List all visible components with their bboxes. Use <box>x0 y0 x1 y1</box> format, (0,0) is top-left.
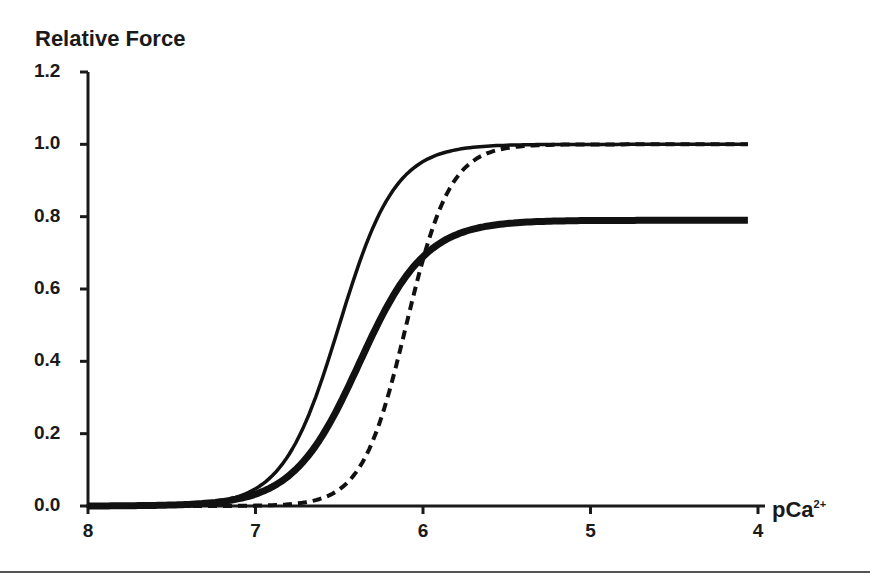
x-tick-label: 4 <box>743 520 773 542</box>
x-tick-label: 7 <box>241 520 271 542</box>
axes <box>80 72 765 514</box>
y-tick-label: 0.6 <box>34 277 78 299</box>
y-tick-label: 0.8 <box>34 205 78 227</box>
chart-plot-area <box>0 0 870 580</box>
curve-solid-thin <box>88 144 748 506</box>
y-axis-title: Relative Force <box>35 26 185 52</box>
x-tick-label: 6 <box>408 520 438 542</box>
y-tick-label: 0.0 <box>34 494 78 516</box>
x-axis-title-main: pCa <box>772 497 814 522</box>
x-tick-label: 5 <box>576 520 606 542</box>
x-axis-title: pCa2+ <box>772 497 826 523</box>
x-axis-title-sup: 2+ <box>814 498 827 510</box>
curve-solid-thick <box>88 220 748 506</box>
y-tick-label: 1.2 <box>34 60 78 82</box>
y-tick-label: 0.4 <box>34 349 78 371</box>
curves <box>88 144 748 506</box>
x-tick-label: 8 <box>73 520 103 542</box>
bottom-divider <box>0 571 870 573</box>
y-tick-label: 0.2 <box>34 422 78 444</box>
y-tick-label: 1.0 <box>34 132 78 154</box>
curve-dashed <box>88 144 748 506</box>
